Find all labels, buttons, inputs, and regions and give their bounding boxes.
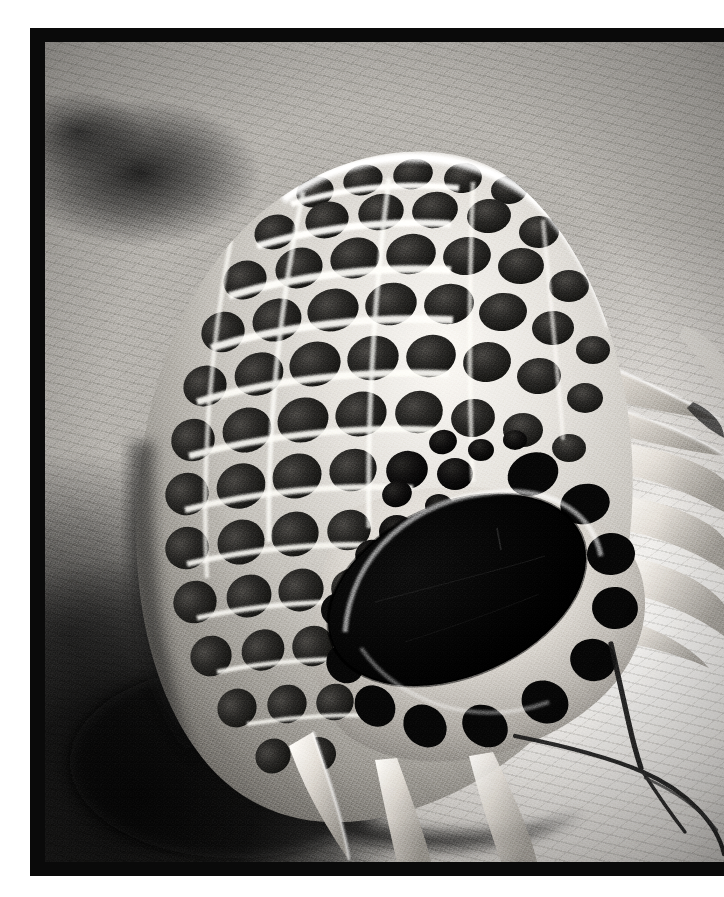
vignette-layer [45,42,724,862]
sem-micrograph [45,42,724,862]
photographic-plate [0,0,724,897]
